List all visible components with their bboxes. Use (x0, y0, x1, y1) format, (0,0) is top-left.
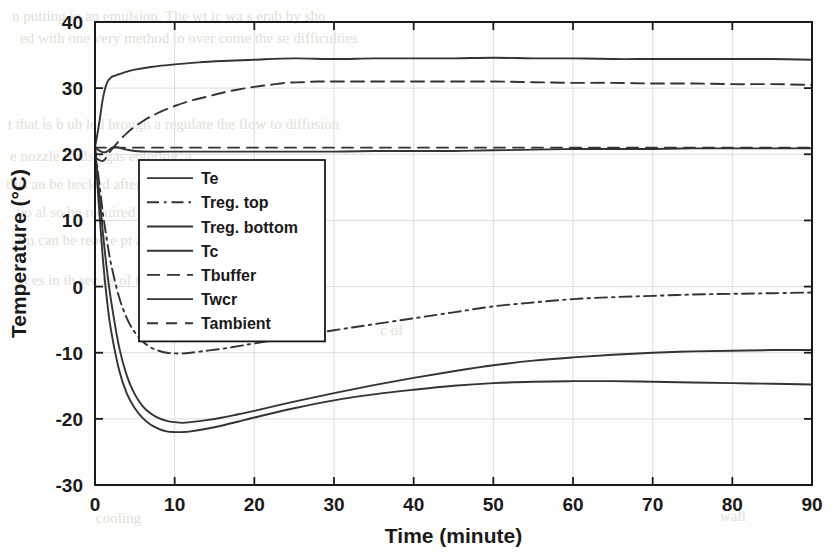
x-tick-label: 10 (164, 494, 185, 515)
legend-label-te: Te (201, 170, 219, 187)
x-tick-label: 90 (801, 494, 822, 515)
x-tick-label: 0 (90, 494, 101, 515)
series-line-tc (95, 58, 812, 148)
x-tick-label: 50 (483, 494, 504, 515)
legend-label-tc: Tc (201, 243, 219, 260)
y-tick-label: 30 (62, 78, 83, 99)
y-tick-label: 0 (72, 277, 83, 298)
y-tick-label: 40 (62, 12, 83, 33)
x-tick-label: 70 (642, 494, 663, 515)
x-tick-label: 30 (323, 494, 344, 515)
chart-legend: TeTreg. topTreg. bottomTcTbufferTwcrTamb… (139, 160, 325, 341)
x-axis-title: Time (minute) (385, 524, 522, 547)
legend-label-treg-bottom: Treg. bottom (201, 219, 298, 236)
legend-label-twcr: Twcr (201, 291, 237, 308)
legend-label-treg-top: Treg. top (201, 194, 269, 211)
x-tick-label: 20 (244, 494, 265, 515)
y-axis-title: Temperature (°C) (7, 169, 30, 338)
temperature-time-chart: 0102030405060708090403020100-10-20-30 Ti… (0, 0, 840, 560)
legend-label-tambient: Tambient (201, 315, 272, 332)
x-tick-label: 60 (562, 494, 583, 515)
y-tick-label: 10 (62, 210, 83, 231)
y-tick-label: -20 (56, 409, 83, 430)
x-tick-label: 40 (403, 494, 424, 515)
chart-page: n putting in an emulsion. The wt ic wa s… (0, 0, 840, 560)
y-tick-label: 20 (62, 144, 83, 165)
x-tick-label: 80 (722, 494, 743, 515)
y-tick-label: -10 (56, 343, 83, 364)
y-tick-label: -30 (56, 475, 83, 496)
legend-label-tbuffer: Tbuffer (201, 267, 256, 284)
